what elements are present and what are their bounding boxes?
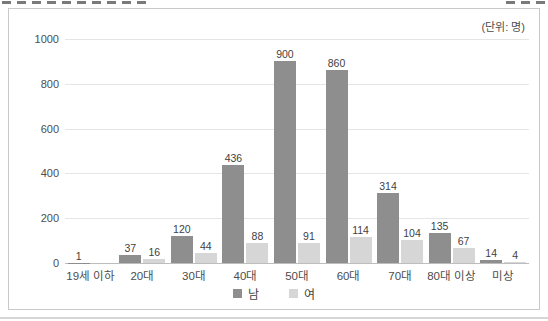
bar-value-label: 37 (124, 242, 136, 254)
y-axis-tick-label: 800 (15, 77, 59, 91)
bar-slot-male: 1 (67, 39, 91, 263)
bar-group: 1 (67, 39, 115, 263)
cropped-heading-remnant-left (2, 1, 150, 4)
bar-female (350, 237, 372, 263)
x-axis-category-label: 20대 (117, 267, 169, 283)
bar-slot-female: 91 (297, 39, 321, 263)
bar-male (429, 233, 451, 263)
bar-slot-male: 37 (118, 39, 142, 263)
bar-male (119, 255, 141, 263)
bar-group: 43688 (221, 39, 269, 263)
bar-slot-male: 860 (325, 39, 349, 263)
bar-groups: 1371612044436889009186011431410413567144 (65, 39, 529, 263)
y-axis: 02004006008001000 (15, 39, 59, 263)
unit-label: (단위: 명) (482, 18, 525, 34)
x-axis-category-label: 50대 (271, 267, 323, 283)
bar-female (246, 243, 268, 263)
plot-area: 1371612044436889009186011431410413567144 (65, 39, 529, 263)
bar-male (326, 70, 348, 263)
bar-female (453, 248, 475, 263)
bar-male (171, 236, 193, 263)
bar-value-label: 67 (458, 235, 470, 247)
bar-value-label: 14 (485, 247, 497, 259)
bar-value-label: 4 (512, 249, 518, 261)
bar-value-label: 44 (200, 240, 212, 252)
bar-male (377, 193, 399, 263)
x-axis-line (65, 263, 529, 264)
cropped-element-remnant-bottom (0, 317, 548, 319)
y-axis-tick-label: 400 (15, 166, 59, 180)
bar-slot-female: 4 (503, 39, 527, 263)
legend-item-female: 여 (289, 285, 315, 302)
bar-female (401, 240, 423, 263)
bar-value-label: 1 (76, 250, 82, 262)
x-axis-category-label: 40대 (220, 267, 272, 283)
x-axis-category-label: 80대 이상 (426, 267, 478, 283)
cropped-heading-remnant-right (506, 1, 546, 4)
bar-female (504, 262, 526, 263)
bar-slot-male: 120 (170, 39, 194, 263)
bar-value-label: 120 (173, 223, 191, 235)
bar-slot-male: 436 (221, 39, 245, 263)
bar-group: 12044 (170, 39, 218, 263)
bar-slot-male: 314 (376, 39, 400, 263)
legend-swatch-icon (233, 289, 242, 298)
chart-frame: (단위: 명) 02004006008001000 13716120444368… (8, 8, 540, 310)
bar-slot-female: 16 (142, 39, 166, 263)
bar-value-label: 104 (403, 227, 421, 239)
bar-slot-male: 900 (273, 39, 297, 263)
bar-group: 860114 (325, 39, 373, 263)
legend-swatch-icon (289, 289, 298, 298)
bar-female (298, 243, 320, 263)
bar-value-label: 314 (379, 180, 397, 192)
bar-female (143, 259, 165, 263)
bar-value-label: 114 (352, 224, 369, 236)
bar-value-label: 436 (225, 152, 243, 164)
x-axis-category-label: 60대 (323, 267, 375, 283)
legend-item-male: 남 (233, 285, 259, 302)
bar-group: 13567 (428, 39, 476, 263)
bar-slot-male: 135 (428, 39, 452, 263)
legend-label: 남 (248, 285, 259, 302)
x-axis-category-label: 30대 (168, 267, 220, 283)
bar-female (195, 253, 217, 263)
x-axis-labels: 19세 이하20대30대40대50대60대70대80대 이상미상 (65, 267, 529, 283)
bar-male (274, 61, 296, 263)
bar-group: 3716 (118, 39, 166, 263)
bar-slot-female: 67 (452, 39, 476, 263)
bar-slot-male: 14 (479, 39, 503, 263)
bar-slot-female: 44 (194, 39, 218, 263)
x-axis-category-label: 19세 이하 (65, 267, 117, 283)
y-axis-tick-label: 1000 (15, 32, 59, 46)
bar-slot-female: 104 (400, 39, 424, 263)
y-axis-tick-label: 0 (15, 256, 59, 270)
bar-group: 144 (479, 39, 527, 263)
legend: 남여 (9, 285, 539, 302)
bar-value-label: 135 (431, 220, 449, 232)
chart-screenshot: (단위: 명) 02004006008001000 13716120444368… (0, 0, 548, 321)
bar-slot-female (91, 39, 115, 263)
y-axis-tick-label: 600 (15, 122, 59, 136)
bar-value-label: 16 (148, 246, 160, 258)
bar-group: 314104 (376, 39, 424, 263)
bar-male (480, 260, 502, 263)
bar-group: 90091 (273, 39, 321, 263)
bar-value-label: 91 (303, 230, 315, 242)
bar-value-label: 860 (328, 57, 346, 69)
y-axis-tick-label: 200 (15, 211, 59, 225)
bar-slot-female: 88 (245, 39, 269, 263)
bar-slot-female: 114 (349, 39, 373, 263)
x-axis-category-label: 70대 (374, 267, 426, 283)
x-axis-category-label: 미상 (478, 267, 530, 283)
legend-label: 여 (304, 285, 315, 302)
bar-value-label: 88 (252, 230, 264, 242)
bar-value-label: 900 (276, 48, 294, 60)
bar-male (222, 165, 244, 263)
